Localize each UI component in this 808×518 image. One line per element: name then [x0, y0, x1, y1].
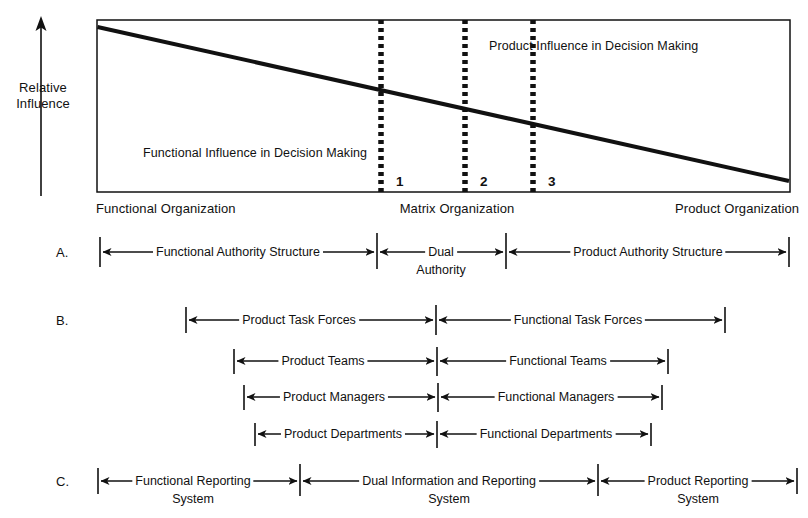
segment-label-product-managers: Product Managers — [280, 391, 388, 404]
segment-label-functional-managers: Functional Managers — [495, 391, 618, 404]
figure-canvas: Relative Influence Product Influence in … — [0, 0, 808, 518]
section-letter-c: C. — [56, 474, 69, 489]
y-axis-label-line1: Relative — [10, 80, 76, 96]
segment-sublabel-functional-reporting-system: System — [172, 492, 214, 506]
segment-label-functional-reporting: Functional Reporting — [132, 475, 253, 488]
segment-sublabel-authority: Authority — [416, 263, 465, 277]
y-axis-label: Relative Influence — [10, 80, 76, 112]
segment-sublabel-dual-system: System — [428, 492, 470, 506]
segment-label-functional-departments: Functional Departments — [477, 428, 616, 441]
x-axis-label-matrix: Matrix Organization — [400, 201, 515, 216]
segment-label-dual: Dual — [425, 246, 457, 259]
segment-label-product-authority-structure: Product Authority Structure — [570, 246, 725, 259]
y-axis-label-line2: Influence — [10, 96, 76, 112]
section-letter-a: A. — [56, 245, 68, 260]
segment-label-product-departments: Product Departments — [281, 428, 405, 441]
product-influence-annotation: Product Influence in Decision Making — [489, 39, 698, 53]
section-letter-b: B. — [56, 313, 68, 328]
segment-label-product-teams: Product Teams — [278, 355, 367, 368]
segment-sublabel-product-reporting-system: System — [677, 492, 719, 506]
marker-label-3: 3 — [548, 174, 556, 189]
marker-label-1: 1 — [396, 174, 404, 189]
x-axis-label-product: Product Organization — [675, 201, 799, 216]
functional-influence-annotation: Functional Influence in Decision Making — [143, 146, 367, 160]
segment-label-dual-information-and-reporting: Dual Information and Reporting — [359, 475, 539, 488]
segment-label-product-reporting: Product Reporting — [645, 475, 752, 488]
segment-label-functional-task-forces: Functional Task Forces — [511, 314, 645, 327]
marker-label-2: 2 — [480, 174, 488, 189]
x-axis-label-functional: Functional Organization — [96, 201, 236, 216]
segment-label-product-task-forces: Product Task Forces — [239, 314, 359, 327]
segment-label-functional-authority-structure: Functional Authority Structure — [153, 246, 323, 259]
segment-label-functional-teams: Functional Teams — [506, 355, 610, 368]
